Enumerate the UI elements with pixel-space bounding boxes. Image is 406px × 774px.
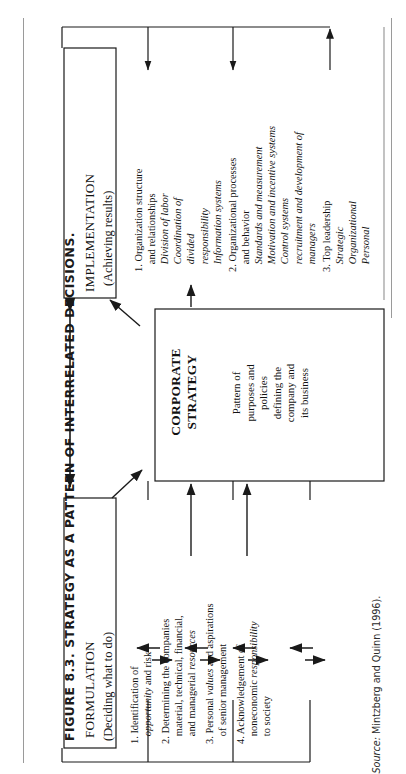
implementation-item-1: 1. Organization structure and relationsh… <box>132 169 224 272</box>
formulation-item-4-line-3: to society <box>260 621 273 744</box>
formulation-item-3-line-2: of senior management <box>216 603 229 744</box>
implementation-item-2-line-3: Standards and measurement <box>252 126 265 272</box>
implementation-item-1-line-6: responsibility <box>198 169 211 272</box>
cs-body-line-3: policies <box>257 334 271 452</box>
formulation-item-2-line-2: material, technical, financial, <box>172 615 185 744</box>
implementation-item-2-line-6: recruitment and development of <box>292 126 305 272</box>
implementation-item-2: 2. Organizational processes and behavior… <box>226 126 318 272</box>
corporate-strategy-title-line-2: STRATEGY <box>184 312 200 472</box>
formulation-item-4-line-1: 4. Acknowledgement of <box>234 621 247 744</box>
formulation-item-2-line-3: and managerial resources <box>185 615 198 744</box>
corporate-strategy-body: Pattern of purposes and policies definin… <box>230 334 311 452</box>
implementation-item-1-line-7: Information systems <box>211 169 224 272</box>
implementation-item-1-line-5: divided <box>184 169 197 272</box>
formulation-item-4-line-2: noneconomic responsibility <box>247 621 260 744</box>
implementation-item-1-line-1: 1. Organization structure <box>132 169 145 272</box>
implementation-item-1-line-4: Coordination of <box>171 169 184 272</box>
implementation-item-3-line-1: 3. Top leadership <box>320 200 333 272</box>
formulation-item-2: 2. Determining the companies material, t… <box>159 615 198 744</box>
formulation-to-strategy-arrow <box>112 470 142 498</box>
cs-body-line-4: defining the <box>271 334 285 452</box>
formulation-box-title: FORMULATION <box>82 641 98 738</box>
formulation-item-2-line-1: 2. Determining the companies <box>159 615 172 744</box>
formulation-item-3: 3. Personal values and aspirations of se… <box>203 603 229 744</box>
implementation-item-2-line-2: and behavior <box>239 126 252 272</box>
formulation-item-1-line-2: opportunity and risk <box>141 652 154 744</box>
cs-body-line-6: its business <box>298 334 312 452</box>
strategy-to-implementation-arrow <box>110 300 140 326</box>
corporate-strategy-title: CORPORATE STRATEGY <box>168 312 200 472</box>
implementation-item-2-line-5: Control systems <box>279 126 292 272</box>
corporate-strategy-title-line-1: CORPORATE <box>168 312 184 472</box>
implementation-item-1-line-2: and relationships <box>145 169 158 272</box>
implementation-item-3-line-4: Personal <box>360 200 373 272</box>
cs-body-line-1: Pattern of <box>230 334 244 452</box>
implementation-item-3-line-2: Strategic <box>334 200 347 272</box>
formulation-box-subtitle: (Deciding what to do) <box>101 632 116 741</box>
implementation-item-3-line-3: Organizational <box>347 200 360 272</box>
implementation-item-2-line-4: Motivation and incentive systems <box>266 126 279 272</box>
implementation-item-2-line-7: managers <box>305 126 318 272</box>
formulation-item-1-line-1: 1. Identification of <box>128 652 141 744</box>
formulation-item-3-line-1: 3. Personal values and aspirations <box>203 603 216 744</box>
implementation-box-title: IMPLEMENTATION <box>82 174 98 292</box>
cs-body-line-2: purposes and <box>244 334 258 452</box>
implementation-item-3: 3. Top leadership Strategic Organization… <box>320 200 372 272</box>
cs-body-line-5: company and <box>284 334 298 452</box>
implementation-box-subtitle: (Achieving results) <box>101 191 116 286</box>
implementation-item-2-line-1: 2. Organizational processes <box>226 126 239 272</box>
formulation-item-1: 1. Identification of opportunity and ris… <box>128 652 154 744</box>
implementation-item-1-line-3: Division of labor <box>158 169 171 272</box>
formulation-item-4: 4. Acknowledgement of noneconomic respon… <box>234 621 273 744</box>
